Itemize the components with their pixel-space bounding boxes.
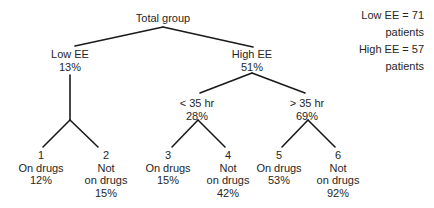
leaf-line1: Not	[85, 162, 128, 175]
leaf-line3: 15%	[85, 187, 128, 200]
legend: Low EE = 71 patients High EE = 57 patien…	[320, 7, 424, 75]
leaf-line2: 15%	[145, 174, 190, 187]
node-value: 28%	[180, 110, 215, 123]
node-gt-35hr: > 35 hr 69%	[290, 97, 325, 122]
node-label: < 35 hr	[180, 97, 215, 110]
leaf-line1: On drugs	[256, 162, 301, 175]
legend-high-ee: High EE = 57 patients	[320, 41, 424, 75]
leaf-3: 3 On drugs 15%	[145, 149, 190, 187]
legend-low-ee: Low EE = 71 patients	[320, 7, 424, 41]
leaf-line1: On drugs	[18, 162, 63, 175]
leaf-line3: 92%	[317, 187, 360, 200]
leaf-line3: 42%	[207, 187, 250, 200]
edge-lt35-leaf4	[198, 120, 225, 147]
leaf-4: 4 Not on drugs 42%	[207, 149, 250, 199]
node-high-ee: High EE 51%	[232, 48, 272, 73]
leaf-5: 5 On drugs 53%	[256, 149, 301, 187]
node-label: > 35 hr	[290, 97, 325, 110]
leaf-line2: on drugs	[85, 174, 128, 187]
leaf-2: 2 Not on drugs 15%	[85, 149, 128, 199]
node-low-ee: Low EE 13%	[51, 48, 89, 73]
leaf-line1: Not	[317, 162, 360, 175]
leaf-line2: 53%	[256, 174, 301, 187]
node-lt-35hr: < 35 hr 28%	[180, 97, 215, 122]
edge-low-leaf1	[43, 120, 70, 147]
edge-high-gt35	[252, 73, 305, 93]
node-value: 13%	[51, 61, 89, 74]
leaf-number: 3	[145, 149, 190, 162]
edge-root-high	[163, 27, 253, 47]
node-label: Total group	[136, 12, 190, 24]
edge-lt35-leaf3	[172, 120, 198, 147]
leaf-line1: Not	[207, 162, 250, 175]
leaf-number: 4	[207, 149, 250, 162]
leaf-line2: on drugs	[317, 174, 360, 187]
leaf-line2: 12%	[18, 174, 63, 187]
leaf-1: 1 On drugs 12%	[18, 149, 63, 187]
edge-low-leaf2	[70, 120, 98, 147]
leaf-line1: On drugs	[145, 162, 190, 175]
node-value: 51%	[232, 61, 272, 74]
node-value: 69%	[290, 110, 325, 123]
leaf-line2: on drugs	[207, 174, 250, 187]
node-label: Low EE	[51, 48, 89, 61]
leaf-6: 6 Not on drugs 92%	[317, 149, 360, 199]
edge-gt35-leaf6	[308, 120, 335, 147]
node-label: High EE	[232, 48, 272, 61]
edge-root-low	[75, 27, 163, 46]
leaf-number: 2	[85, 149, 128, 162]
edge-gt35-leaf5	[282, 120, 308, 147]
leaf-number: 5	[256, 149, 301, 162]
node-total-group: Total group	[136, 12, 190, 25]
edge-high-lt35	[200, 73, 252, 93]
leaf-number: 1	[18, 149, 63, 162]
leaf-number: 6	[317, 149, 360, 162]
